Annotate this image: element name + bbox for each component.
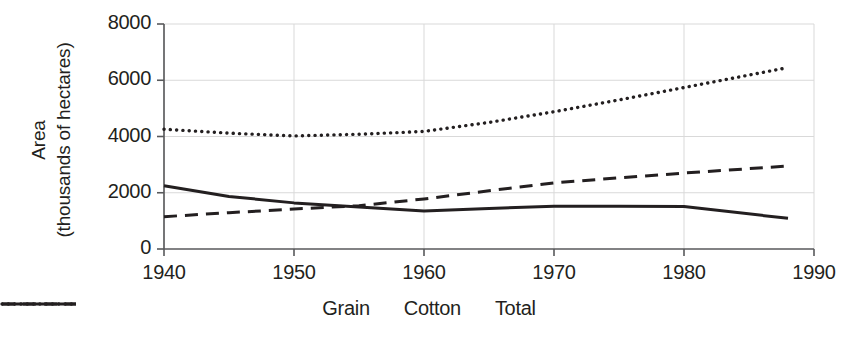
chart-figure: Area (thousands of hectares) 02000400060…	[0, 0, 858, 346]
x-tick-label: 1940	[109, 261, 219, 284]
x-tick-label: 1990	[759, 261, 858, 284]
legend-label: Grain	[322, 297, 369, 320]
series-line-total	[164, 68, 788, 136]
y-tick-label: 6000	[61, 67, 151, 90]
x-tick-label: 1970	[499, 261, 609, 284]
legend-label: Total	[495, 297, 536, 320]
legend-swatch-dotted-icon	[0, 297, 78, 311]
chart-legend: GrainCottonTotal	[0, 297, 858, 320]
y-tick-label: 0	[61, 236, 151, 259]
plot-area	[0, 0, 858, 346]
legend-item-total[interactable]: Total	[495, 297, 536, 320]
y-tick-label: 4000	[61, 124, 151, 147]
x-tick-label: 1960	[369, 261, 479, 284]
y-tick-label: 8000	[61, 11, 151, 34]
y-tick-label: 2000	[61, 180, 151, 203]
series-line-grain	[164, 186, 788, 219]
legend-label: Cotton	[404, 297, 461, 320]
legend-item-cotton[interactable]: Cotton	[404, 297, 461, 320]
grid-lines	[164, 24, 814, 249]
legend-item-grain[interactable]: Grain	[322, 297, 369, 320]
axis-lines	[157, 24, 814, 256]
x-tick-label: 1950	[239, 261, 349, 284]
x-tick-label: 1980	[629, 261, 739, 284]
